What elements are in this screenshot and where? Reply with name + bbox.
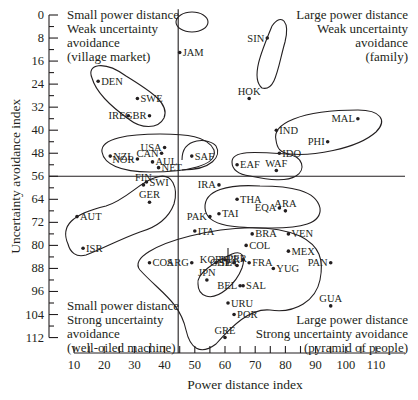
x-tick-label: 60 <box>219 358 232 372</box>
data-point-mal: MAL <box>332 113 360 124</box>
point-label: MEX <box>291 246 315 257</box>
point-label: WAF <box>265 158 287 169</box>
quadrant-label-top-left: (village market) <box>67 49 150 64</box>
point-label: JPN <box>198 267 216 278</box>
y-tick-label: 56 <box>32 169 45 183</box>
point-label: BEL <box>217 280 237 291</box>
point-marker <box>75 215 79 219</box>
data-point-waf: WAF <box>265 158 287 173</box>
point-marker <box>81 246 85 250</box>
point-label: AUL <box>156 156 178 167</box>
point-marker <box>214 261 218 265</box>
point-marker <box>148 261 152 265</box>
y-tick-label: 0 <box>38 8 44 22</box>
data-point-col: COL <box>244 240 270 251</box>
quadrant-label-top-left: Weak uncertainty <box>67 21 158 36</box>
point-label: POR <box>237 309 257 320</box>
y-axis-title: Uncertainty avoidance index <box>8 98 23 253</box>
quadrant-label-top-right: avoidance <box>355 35 408 50</box>
point-marker <box>163 146 167 150</box>
y-tick-label: 40 <box>32 123 45 137</box>
y-tick-label: 88 <box>32 261 45 275</box>
y-tick-label: 24 <box>32 77 45 91</box>
point-marker <box>287 249 291 253</box>
point-label: MAL <box>332 113 355 124</box>
point-marker <box>272 267 276 271</box>
point-marker <box>148 200 152 204</box>
quadrant-label-top-right: (family) <box>365 49 408 64</box>
point-marker <box>235 198 239 202</box>
point-marker <box>278 151 282 155</box>
data-point-tai: TAI <box>217 208 239 219</box>
point-marker <box>235 163 239 167</box>
point-label: GUA <box>319 293 342 304</box>
cluster-sin-hok <box>257 19 287 88</box>
point-marker <box>241 284 245 288</box>
point-label: ISR <box>86 243 102 254</box>
point-label: IND <box>279 125 298 136</box>
point-marker <box>217 212 221 216</box>
point-marker <box>329 304 333 308</box>
y-tick-label: 96 <box>32 284 45 298</box>
point-label: NOR <box>112 154 134 165</box>
y-tick-label: 8 <box>38 31 44 45</box>
y-tick-label: 16 <box>32 54 45 68</box>
quadrant-label-bottom-left: Small power distance <box>67 298 179 313</box>
point-label: YUG <box>276 263 299 274</box>
data-point-phi: PHI <box>308 136 330 147</box>
data-point-saf: SAF <box>190 151 214 162</box>
point-marker <box>265 36 269 40</box>
quadrant-label-bottom-left: (well-oiled machine) <box>67 340 176 355</box>
point-marker <box>217 183 221 187</box>
point-label: EAF <box>240 159 260 170</box>
point-marker <box>148 114 152 118</box>
data-point-den: DEN <box>96 76 123 87</box>
point-marker <box>275 128 279 132</box>
quadrant-label-bottom-right: Strong uncertainty avoidance <box>256 326 409 341</box>
point-label: HOK <box>238 86 261 97</box>
point-label: COS <box>153 257 174 268</box>
point-label: SAF <box>195 151 214 162</box>
quadrant-label-bottom-right: (pyramid of people) <box>304 340 408 355</box>
data-point-por: POR <box>232 309 257 320</box>
point-marker <box>247 261 251 265</box>
point-marker <box>151 160 155 164</box>
point-marker <box>326 140 330 144</box>
data-point-ind: IND <box>275 125 299 136</box>
data-point-ira: IRA <box>198 179 221 190</box>
data-point-aul: AUL <box>151 156 177 167</box>
data-point-isr: ISR <box>81 243 102 254</box>
point-label: ITA <box>198 226 215 237</box>
point-label: SAL <box>246 280 266 291</box>
x-tick-label: 30 <box>128 358 141 372</box>
point-label: ARA <box>274 198 297 209</box>
point-marker <box>96 79 100 83</box>
point-marker <box>205 278 209 282</box>
point-label: PHI <box>308 136 325 147</box>
point-label: IRA <box>198 179 217 190</box>
data-point-gre: GRE <box>215 325 236 340</box>
data-point-mex: MEX <box>287 246 316 257</box>
data-point-eaf: EAF <box>235 159 260 170</box>
data-point-ara: ARA <box>274 198 297 213</box>
point-marker <box>136 97 140 101</box>
point-label: VEN <box>291 228 313 239</box>
point-label: AUT <box>80 211 102 222</box>
y-tick-label: 64 <box>32 192 45 206</box>
y-tick-label: 72 <box>32 215 45 229</box>
quadrant-label-bottom-left: avoidance <box>67 326 120 341</box>
data-point-jam: JAM <box>178 47 204 58</box>
point-label: JAM <box>183 47 205 58</box>
x-axis-title: Power distance index <box>187 377 303 392</box>
point-marker <box>193 229 197 233</box>
point-label: GBR <box>125 110 147 121</box>
data-point-jpn: JPN <box>198 267 216 282</box>
data-point-ger: GER <box>139 189 160 204</box>
data-point-sal: SAL <box>241 280 266 291</box>
y-tick-label: 32 <box>32 100 45 114</box>
point-label: IRE <box>108 110 125 121</box>
y-tick-label: 80 <box>32 238 45 252</box>
point-label: COL <box>249 240 270 251</box>
point-label: SWI <box>149 177 169 188</box>
point-marker <box>275 169 279 173</box>
